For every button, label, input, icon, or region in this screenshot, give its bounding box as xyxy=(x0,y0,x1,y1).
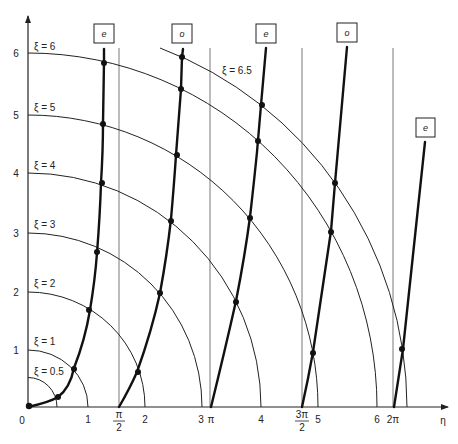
x-tick-2pi: 2π xyxy=(387,414,400,425)
point xyxy=(135,369,141,375)
xi-label-6: ξ = 6 xyxy=(34,41,56,53)
xi-label-2: ξ = 2 xyxy=(34,278,56,290)
point xyxy=(168,218,174,224)
xi-label-4: ξ = 4 xyxy=(34,160,56,172)
xi-curve-5 xyxy=(28,115,318,407)
mode-curves xyxy=(28,47,425,407)
x-tick-pi-half: π 2 xyxy=(113,409,125,433)
x-tick-labels: 0 1 2 3 4 5 6 π π 2 3π 2 2π η xyxy=(19,409,446,433)
point xyxy=(255,138,261,144)
point xyxy=(332,180,338,186)
y-tick-labels: 1 2 3 4 5 6 xyxy=(13,48,19,356)
x-tick-1: 1 xyxy=(85,414,91,425)
mode-box-e3: e xyxy=(416,118,435,137)
xi-label-6.5: ξ = 6.5 xyxy=(222,65,252,77)
mode-curve-o2 xyxy=(302,47,347,407)
mode-label: e xyxy=(423,123,428,133)
y-tick-5: 5 xyxy=(13,110,19,121)
x-tick-pi: π xyxy=(208,414,215,425)
point xyxy=(178,86,184,92)
x-tick-4: 4 xyxy=(258,414,264,425)
dispersion-diagram: e o e o e ξ = 0.5 ξ = 1 ξ = 2 ξ = 3 ξ = … xyxy=(0,0,458,444)
xi-circles xyxy=(28,48,407,407)
point xyxy=(174,152,180,158)
mode-boxes: e o e o e xyxy=(94,23,435,137)
xi-labels: ξ = 0.5 ξ = 1 ξ = 2 ξ = 3 ξ = 4 ξ = 5 ξ … xyxy=(34,41,252,378)
y-tick-1: 1 xyxy=(13,345,19,356)
mode-curve-e2 xyxy=(211,48,266,407)
fraction-denominator: 2 xyxy=(116,422,122,433)
mode-label: o xyxy=(344,28,349,38)
mode-box-e2: e xyxy=(256,24,276,43)
point xyxy=(86,307,92,313)
mode-label: o xyxy=(179,29,184,39)
xi-label-5: ξ = 5 xyxy=(34,102,56,114)
xi-label-0.5: ξ = 0.5 xyxy=(34,366,64,378)
point xyxy=(233,299,239,305)
fraction-numerator: π xyxy=(116,409,123,420)
point xyxy=(101,60,107,66)
fraction-numerator: 3π xyxy=(296,409,309,420)
mode-label: e xyxy=(263,29,268,39)
xi-curve-6.5 xyxy=(160,48,407,407)
point xyxy=(99,180,105,186)
xi-label-3: ξ = 3 xyxy=(34,219,56,231)
point xyxy=(259,102,265,108)
y-tick-4: 4 xyxy=(13,168,19,179)
x-axis-label: η xyxy=(440,415,446,426)
mode-box-o1: o xyxy=(172,24,192,43)
mode-curve-o1 xyxy=(119,49,183,407)
point xyxy=(328,229,334,235)
x-tick-2: 2 xyxy=(142,414,148,425)
x-tick-6: 6 xyxy=(374,414,380,425)
point xyxy=(71,366,77,372)
mode-label: e xyxy=(101,29,106,39)
mode-curve-e3 xyxy=(394,142,425,407)
point xyxy=(247,215,253,221)
fraction-denominator: 2 xyxy=(299,422,305,433)
point xyxy=(399,346,405,352)
mode-box-o2: o xyxy=(337,23,357,42)
y-tick-6: 6 xyxy=(13,48,19,59)
pi-gridlines xyxy=(119,48,393,407)
xi-curve-3 xyxy=(28,233,202,407)
point xyxy=(100,121,106,127)
y-tick-2: 2 xyxy=(13,287,19,298)
point xyxy=(55,394,61,400)
point xyxy=(157,290,163,296)
origin-label: 0 xyxy=(19,415,25,426)
point xyxy=(310,350,316,356)
point xyxy=(179,54,185,60)
point xyxy=(26,403,32,409)
xi-label-1: ξ = 1 xyxy=(34,336,56,348)
y-tick-3: 3 xyxy=(13,228,19,239)
intersection-points xyxy=(26,54,405,409)
x-tick-3: 3 xyxy=(198,414,204,425)
mode-box-e1: e xyxy=(94,24,114,43)
x-tick-5: 5 xyxy=(315,414,321,425)
point xyxy=(94,249,100,255)
x-tick-3pi-half: 3π 2 xyxy=(295,409,309,433)
